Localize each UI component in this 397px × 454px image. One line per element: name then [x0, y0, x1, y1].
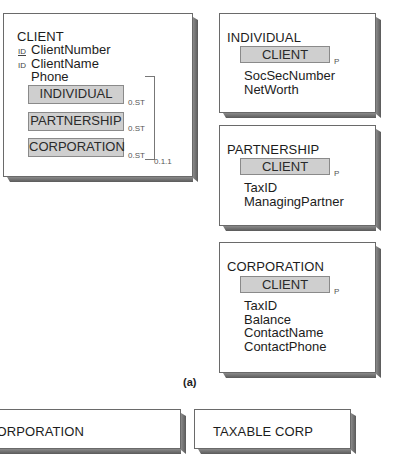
attribute-contactname: ContactName [244, 326, 323, 340]
group-cardinality: 0.1.1 [154, 157, 172, 166]
subtype-group-bracket [145, 76, 155, 160]
attribute-socsecnumber: SocSecNumber [244, 69, 335, 83]
attribute-networth: NetWorth [244, 83, 299, 97]
id-marker: ID [18, 61, 26, 70]
supertype-client: CLIENT [240, 46, 330, 63]
id-marker: ID [18, 47, 26, 56]
attribute-managingpartner: ManagingPartner [244, 195, 344, 209]
attribute-client-number: ClientNumber [31, 43, 110, 57]
subtype-partnership: PARTNERSHIP [28, 112, 124, 131]
taxable-corp-title: TAXABLE CORP [213, 424, 313, 439]
partnership-title: PARTNERSHIP [227, 142, 319, 157]
supertype-cardinality: P [334, 57, 339, 66]
subtype-cardinality: 0.ST [128, 151, 145, 160]
partnership-object-box: PARTNERSHIP CLIENT P TaxID ManagingPartn… [219, 125, 376, 226]
subtype-individual: INDIVIDUAL [28, 85, 124, 104]
corporation-title: CORPORATION [227, 259, 324, 274]
attribute-taxid: TaxID [244, 299, 277, 313]
supertype-client: CLIENT [240, 158, 330, 175]
taxable-corp-object-box: TAXABLE CORP [194, 409, 351, 449]
supertype-client: CLIENT [240, 276, 330, 293]
attribute-taxid: TaxID [244, 181, 277, 195]
individual-title: INDIVIDUAL [227, 30, 301, 45]
individual-object-box: INDIVIDUAL CLIENT P SocSecNumber NetWort… [219, 13, 376, 113]
client-object-box: CLIENT ID ClientNumber ID ClientName Pho… [3, 13, 193, 177]
subtype-cardinality: 0.ST [128, 98, 145, 107]
supertype-cardinality: P [334, 287, 339, 296]
corporation-lower-title: CORPORATION [0, 424, 84, 439]
corporation-object-box-lower: CORPORATION [0, 409, 181, 449]
subtype-cardinality: 0.ST [128, 124, 145, 133]
corporation-object-box: CORPORATION CLIENT P TaxID Balance Conta… [219, 242, 376, 373]
subtype-corporation: CORPORATION [28, 138, 124, 157]
figure-caption: (a) [183, 376, 196, 388]
attribute-phone: Phone [31, 70, 69, 84]
attribute-contactphone: ContactPhone [244, 340, 326, 354]
supertype-cardinality: P [334, 169, 339, 178]
